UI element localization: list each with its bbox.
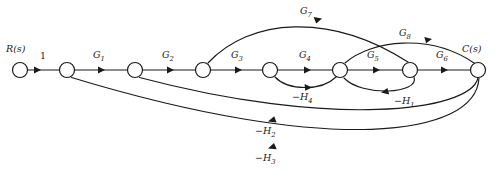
edge-label-g2: G2 xyxy=(162,49,174,63)
node-7[interactable] xyxy=(403,63,418,78)
edge-g2 xyxy=(143,67,196,74)
signal-flow-graph-diagram: R(s) C(s) 1 G1 G2 G3 G4 G5 G6 G7 G8 −H4 xyxy=(0,0,495,174)
svg-text:G8: G8 xyxy=(399,27,412,41)
edge-label-g4: G4 xyxy=(299,49,311,63)
svg-text:G6: G6 xyxy=(436,49,449,63)
svg-text:−H2: −H2 xyxy=(255,125,276,139)
edge-g4 xyxy=(278,67,333,74)
edge-label-h3: −H3 xyxy=(255,152,276,166)
svg-text:G2: G2 xyxy=(162,49,174,63)
edge-label-g1: G1 xyxy=(93,49,105,63)
diagram-canvas: R(s) C(s) 1 G1 G2 G3 G4 G5 G6 G7 G8 −H4 xyxy=(0,0,495,174)
node-output-cs[interactable] xyxy=(471,63,486,78)
edge-g8 xyxy=(345,37,474,63)
node-2[interactable] xyxy=(60,63,75,78)
node-5[interactable] xyxy=(263,63,278,78)
svg-text:G3: G3 xyxy=(231,49,243,63)
edge-g1 xyxy=(75,67,128,74)
svg-text:G7: G7 xyxy=(300,5,313,19)
edge-label-g8: G8 xyxy=(399,27,412,41)
node-6[interactable] xyxy=(333,63,348,78)
edge-g6 xyxy=(418,67,471,74)
svg-text:−H3: −H3 xyxy=(255,152,276,166)
input-label: R(s) xyxy=(5,43,26,54)
node-4[interactable] xyxy=(196,63,211,78)
edge-label-h4: −H4 xyxy=(292,91,313,105)
node-3[interactable] xyxy=(128,63,143,78)
edge-g3 xyxy=(211,67,263,74)
svg-text:−H4: −H4 xyxy=(292,91,313,105)
edge-h3 xyxy=(72,78,480,150)
node-input-rs[interactable] xyxy=(13,63,28,78)
edge-label-g3: G3 xyxy=(231,49,243,63)
svg-text:−H1: −H1 xyxy=(394,95,415,109)
edge-label-h1: −H1 xyxy=(394,95,415,109)
output-label: C(s) xyxy=(462,43,482,54)
edge-g5 xyxy=(348,67,403,74)
svg-text:G4: G4 xyxy=(299,49,311,63)
edge-label-h2: −H2 xyxy=(255,125,276,139)
edge-unity-gain xyxy=(28,67,60,74)
edge-h1 xyxy=(344,77,414,94)
edge-label-g6: G6 xyxy=(436,49,449,63)
svg-text:G1: G1 xyxy=(93,49,105,63)
edge-h4 xyxy=(275,77,336,91)
edge-label-g5: G5 xyxy=(367,49,379,63)
svg-text:G5: G5 xyxy=(367,49,379,63)
edge-label-unity: 1 xyxy=(40,50,46,61)
edge-label-g7: G7 xyxy=(300,5,313,19)
